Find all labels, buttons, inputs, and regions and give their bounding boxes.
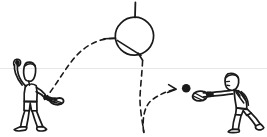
target-circle bbox=[104, 3, 154, 61]
server-shoes bbox=[14, 127, 46, 131]
arrowhead-icon bbox=[168, 85, 177, 93]
server-torso bbox=[24, 84, 45, 101]
serve-trajectory-illustration bbox=[0, 0, 267, 137]
server-head bbox=[24, 62, 36, 85]
server-legs bbox=[21, 111, 43, 128]
server-shorts bbox=[24, 101, 37, 111]
bounce-trajectory bbox=[143, 85, 176, 132]
receiver-racket bbox=[193, 91, 214, 101]
receiver-torso bbox=[234, 90, 248, 110]
sketch-canvas bbox=[0, 0, 267, 137]
server-racket bbox=[43, 95, 63, 105]
server-figure bbox=[14, 59, 64, 131]
receiver-figure bbox=[193, 73, 264, 132]
receiver-head bbox=[225, 73, 239, 90]
receiver-arms bbox=[210, 90, 240, 96]
ball bbox=[182, 84, 191, 93]
